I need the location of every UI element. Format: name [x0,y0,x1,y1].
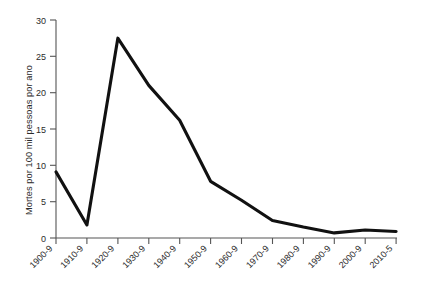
chart-svg: Mortes por 100 mil pessoas por ano 30 25… [0,0,434,283]
x-tick-label-1970-9: 1970-9 [244,243,271,270]
y-axis-ticks: 30 25 20 15 10 5 0 [36,16,56,244]
x-axis-labels: 1900-9 1910-9 1920-9 1930-9 1940-9 1950-… [28,243,395,270]
y-tick-label-5: 5 [41,197,46,207]
y-tick-label-15: 15 [36,125,46,135]
x-tick-label-2010-5: 2010-5 [368,243,395,270]
y-tick-label-25: 25 [36,52,46,62]
x-tick-label-1990-9: 1990-9 [306,243,333,270]
x-tick-label-1900-9: 1900-9 [28,243,55,270]
y-tick-label-10: 10 [36,161,46,171]
x-tick-label-1940-9: 1940-9 [151,243,178,270]
data-series-line [56,38,396,233]
x-tick-label-2000-9: 2000-9 [337,243,364,270]
y-tick-label-0: 0 [41,234,46,244]
x-tick-label-1960-9: 1960-9 [213,243,240,270]
x-axis-ticks [56,238,396,244]
y-axis-title: Mortes por 100 mil pessoas por ano [24,65,34,215]
x-tick-label-1930-9: 1930-9 [120,243,147,270]
x-tick-label-1910-9: 1910-9 [58,243,85,270]
y-tick-label-30: 30 [36,16,46,26]
x-tick-label-1980-9: 1980-9 [275,243,302,270]
y-tick-label-20: 20 [36,88,46,98]
x-tick-label-1950-9: 1950-9 [182,243,209,270]
x-tick-label-1920-9: 1920-9 [89,243,116,270]
line-chart: Mortes por 100 mil pessoas por ano 30 25… [0,0,434,283]
